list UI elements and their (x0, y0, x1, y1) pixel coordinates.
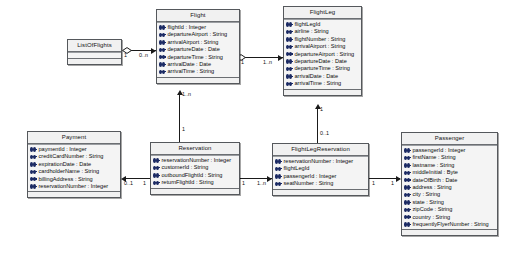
attribute-icon (159, 32, 166, 38)
class-name-reservation: Reservation (151, 143, 239, 155)
attribute-label: airline : String (295, 28, 329, 35)
attribute-row: arrivalAirport : String (159, 39, 238, 46)
attribute-icon (153, 173, 160, 179)
attribute-row: lastname : String (404, 162, 496, 169)
attribute-row: departureTime : String (286, 65, 360, 72)
multiplicity-flightleg-1n: 1..n (263, 59, 272, 65)
attribute-label: lastname : String (413, 162, 455, 169)
attribute-row: flightId : Integer (159, 24, 238, 31)
attribute-label: customerId : String (162, 164, 209, 171)
uml-diagram-canvas: 1 0..n 1 1..n 1..n 1 0..1 1 1 1..n 1 0..… (0, 0, 525, 261)
class-box-payment[interactable]: Payment paymentId : IntegercreditCardNum… (27, 131, 121, 198)
attribute-label: seatNumber : String (284, 180, 334, 187)
attribute-icon (404, 207, 411, 213)
class-name-list-of-flights: ListOfFlights (68, 40, 121, 52)
attribute-row: zipCode : String (404, 206, 496, 213)
attribute-icon (404, 222, 411, 228)
attribute-label: city : String (413, 191, 441, 198)
attribute-icon (286, 37, 293, 43)
multiplicity-flight-1n-reservation: 1..n (182, 91, 191, 97)
attribute-icon (404, 192, 411, 198)
class-box-flight[interactable]: Flight flightId : IntegerdepartureAirpor… (156, 9, 240, 84)
attribute-icon (404, 177, 411, 183)
attribute-row: paymentId : Integer (30, 146, 119, 153)
attribute-icon (30, 162, 37, 168)
attribute-row: creditCardNumber : String (30, 153, 119, 160)
class-box-flight-leg-reservation[interactable]: FlightLegReservation reservationNumber :… (272, 143, 369, 196)
multiplicity-flr-01: 0..1 (320, 130, 329, 136)
attribute-icon (159, 69, 166, 75)
attribute-icon (159, 54, 166, 60)
attribute-row: firstName : String (404, 154, 496, 161)
attribute-icon (30, 154, 37, 160)
class-name-payment: Payment (28, 132, 120, 144)
attribute-row: outboundFlightId : String (153, 172, 238, 179)
class-box-reservation[interactable]: Reservation reservationNumber : Integerc… (150, 142, 240, 195)
attribute-row: middleInitial : Byte (404, 169, 496, 176)
multiplicity-flightleg-1-flr: 1 (320, 106, 323, 112)
attribute-label: returnFlightId : String (162, 179, 214, 186)
attribute-row: customerId : String (153, 164, 238, 171)
attribute-icon (275, 181, 282, 187)
attribute-label: arrivalAirport : String (295, 43, 346, 50)
attribute-icon (286, 81, 293, 87)
multiplicity-flr-1n: 1..n (257, 180, 266, 186)
attribute-label: flightId : Integer (168, 24, 207, 31)
attribute-icon (286, 59, 293, 65)
attribute-icon (275, 159, 282, 165)
attribute-label: reservationNumber : Integer (162, 157, 232, 164)
attribute-icon (30, 169, 37, 175)
attribute-row: cardholderName : String (30, 168, 119, 175)
attribute-label: flightNumber : String (295, 36, 346, 43)
attribute-icon (159, 62, 166, 68)
class-operations-payment (28, 191, 120, 197)
attribute-row: expirationDate : Date (30, 161, 119, 168)
attribute-row: state : String (404, 199, 496, 206)
class-attributes-flight: flightId : IntegerdepartureAirport : Str… (157, 22, 239, 77)
attribute-row: billingAddress : String (30, 176, 119, 183)
attribute-label: zipCode : String (413, 206, 453, 213)
attribute-label: flightLegId (295, 21, 321, 28)
attribute-row: departureAirport : String (286, 51, 360, 58)
class-name-flight: Flight (157, 10, 239, 22)
multiplicity-listofflights-1: 1 (124, 52, 127, 58)
class-box-flight-leg[interactable]: FlightLeg flightLegIdairline : Stringfli… (283, 6, 362, 96)
attribute-row: arrivalDate : Date (159, 61, 238, 68)
attribute-row: flightLegId (286, 21, 360, 28)
attribute-row: address : String (404, 184, 496, 191)
attribute-icon (275, 174, 282, 180)
attribute-label: paymentId : Integer (39, 146, 87, 153)
attribute-icon (404, 214, 411, 220)
class-attributes-flight-leg-reservation: reservationNumber : IntegerflightLegIdpa… (273, 156, 368, 189)
attribute-row: city : String (404, 191, 496, 198)
attribute-label: country : String (413, 214, 451, 221)
connector-flightlegreservation-flightleg (317, 108, 318, 144)
attribute-label: state : String (413, 199, 444, 206)
multiplicity-flr-1-passenger: 1 (372, 180, 375, 186)
attribute-row: passengerId : Integer (404, 147, 496, 154)
attribute-row: reservationNumber : Integer (153, 157, 238, 164)
attribute-label: expirationDate : Date (39, 161, 92, 168)
attribute-icon (30, 147, 37, 153)
attribute-row: departureDate : Date (159, 46, 238, 53)
class-operations-list-of-flights (68, 58, 121, 64)
attribute-label: departureDate : Date (168, 46, 220, 53)
attribute-icon (275, 166, 282, 172)
attribute-label: departureDate : Date (295, 58, 347, 65)
class-box-passenger[interactable]: Passenger passengerId : IntegerfirstName… (401, 132, 498, 236)
attribute-icon (159, 47, 166, 53)
class-operations-flight-leg-reservation (273, 189, 368, 195)
attribute-label: outboundFlightId : String (162, 172, 223, 179)
attribute-row: departureTime : String (159, 54, 238, 61)
attribute-icon (153, 158, 160, 164)
class-box-list-of-flights[interactable]: ListOfFlights (67, 39, 122, 65)
connector-reservation-flight (179, 94, 180, 142)
attribute-row: dateOfBirth : Date (404, 177, 496, 184)
attribute-label: reservationNumber : Integer (284, 158, 354, 165)
attribute-icon (159, 40, 166, 46)
attribute-row: arrivalAirport : String (286, 43, 360, 50)
multiplicity-reservation-1-payment: 1 (143, 180, 146, 186)
class-operations-flight-leg (284, 89, 361, 95)
attribute-icon (286, 51, 293, 57)
connector-reservation-payment (126, 178, 150, 179)
